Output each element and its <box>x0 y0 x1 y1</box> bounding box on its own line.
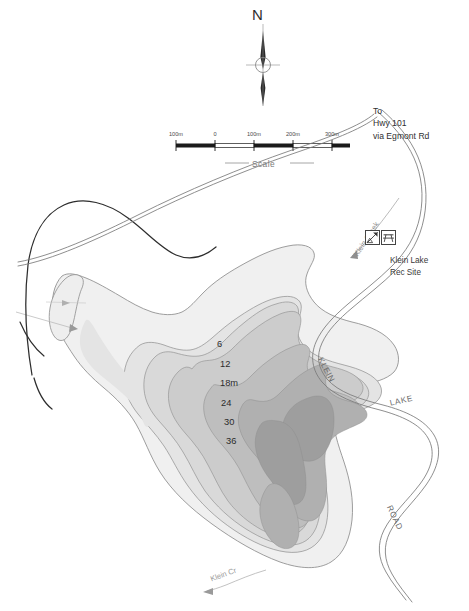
north-label: N <box>252 6 263 25</box>
rec-site-line-1: Klein Lake <box>390 256 428 265</box>
scale-tick-1: 0 <box>213 131 216 137</box>
lake-bathymetry <box>16 245 399 568</box>
depth-label-12: 12 <box>220 359 230 369</box>
picnic-table-icon <box>381 230 396 245</box>
depth-label-18: 18m <box>220 378 238 388</box>
scale-caption: Scale <box>252 159 275 170</box>
depth-label-30: 30 <box>224 417 234 427</box>
scale-tick-0: 100m <box>169 131 183 137</box>
trail-line-south <box>34 378 52 409</box>
rec-site-line-2: Rec Site <box>390 268 421 277</box>
highway-line-1: To <box>373 106 382 116</box>
highway-line-3: via Egmont Rd <box>373 131 429 141</box>
highway-line-2: Hwy 101 <box>373 118 406 128</box>
north-arrow-icon <box>246 24 280 106</box>
depth-label-6: 6 <box>217 339 222 349</box>
scale-tick-3: 200m <box>286 131 300 137</box>
highway-direction-label: ToHwy 101via Egmont Rd <box>373 105 429 142</box>
depth-label-24: 24 <box>221 398 231 408</box>
scale-tick-2: 100m <box>247 131 261 137</box>
boat-launch-camping-icon <box>365 230 380 245</box>
depth-label-36: 36 <box>226 436 236 446</box>
trail-line-spur <box>20 322 44 356</box>
scale-tick-4: 300m <box>325 131 339 137</box>
klein-lake-map: N ToHwy 101via Egmont Rd Klein LakeRec S… <box>0 0 469 611</box>
rec-site-label: Klein LakeRec Site <box>390 255 428 279</box>
